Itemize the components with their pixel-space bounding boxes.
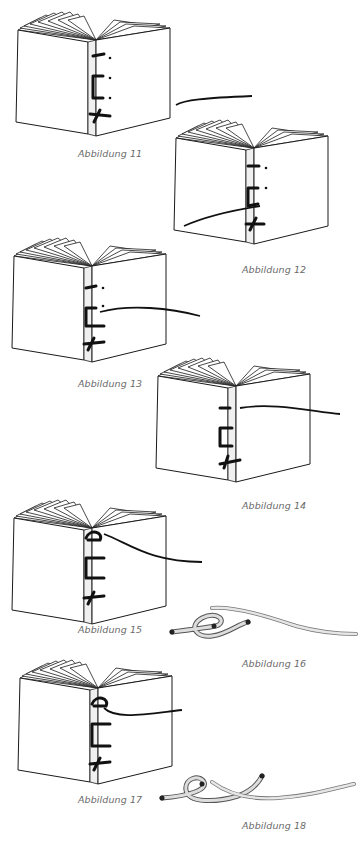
caption-figure-15: Abbildung 15 — [78, 624, 142, 635]
caption-figure-17: Abbildung 17 — [78, 794, 142, 805]
figure-13-illustration — [0, 236, 210, 370]
caption-figure-12: Abbildung 12 — [242, 264, 306, 275]
book-stitch-icon — [144, 356, 354, 486]
figure-18-illustration — [158, 766, 358, 820]
thread-knot-icon — [158, 766, 358, 816]
caption-figure-13: Abbildung 13 — [78, 378, 142, 389]
caption-figure-14: Abbildung 14 — [242, 500, 306, 511]
figure-12-illustration — [162, 118, 352, 252]
book-stitch-icon — [162, 118, 352, 248]
book-stitch-icon — [0, 236, 210, 366]
figure-16-illustration — [168, 600, 358, 654]
caption-figure-18: Abbildung 18 — [242, 820, 306, 831]
caption-figure-11: Abbildung 11 — [78, 148, 142, 159]
caption-figure-16: Abbildung 16 — [242, 658, 306, 669]
figure-14-illustration — [144, 356, 354, 490]
thread-loop-icon — [168, 600, 358, 650]
